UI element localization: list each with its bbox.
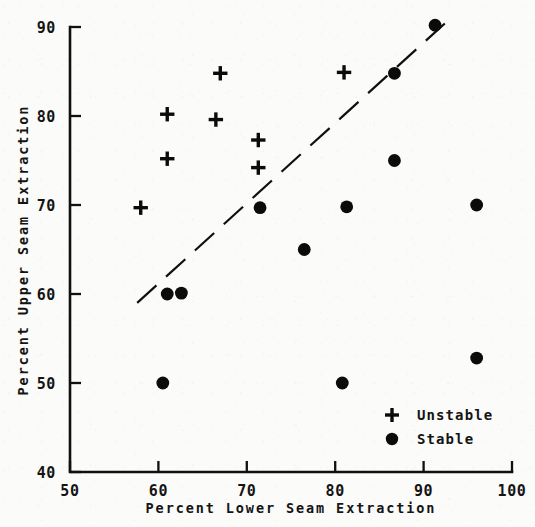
data-point-unstable bbox=[251, 160, 265, 174]
axis-lines bbox=[70, 27, 512, 472]
legend-label-unstable: Unstable bbox=[417, 407, 493, 423]
data-point-stable bbox=[470, 199, 483, 212]
data-point-unstable bbox=[337, 65, 351, 79]
data-point-unstable bbox=[213, 66, 227, 80]
data-point-stable bbox=[161, 288, 174, 301]
data-point-unstable bbox=[251, 133, 265, 147]
data-point-stable bbox=[388, 67, 401, 80]
data-point-stable bbox=[336, 377, 349, 390]
data-point-stable bbox=[298, 243, 311, 256]
x-tick-label-80: 80 bbox=[326, 482, 345, 500]
x-tick-label-50: 50 bbox=[60, 482, 79, 500]
data-point-unstable bbox=[209, 112, 223, 126]
filled-circle-icon bbox=[386, 433, 398, 445]
x-tick-label-100: 100 bbox=[498, 482, 527, 500]
legend-entry-stable: Stable bbox=[386, 431, 474, 447]
data-point-stable bbox=[470, 352, 483, 365]
legend: Unstable Stable bbox=[385, 407, 493, 447]
data-point-stable bbox=[340, 200, 353, 213]
x-axis-ticks bbox=[70, 461, 512, 472]
y-tick-label-60: 60 bbox=[37, 286, 56, 304]
data-point-stable bbox=[429, 19, 442, 32]
x-axis-title: Percent Lower Seam Extraction bbox=[146, 500, 437, 516]
axis-frame bbox=[70, 27, 512, 472]
y-tick-label-80: 80 bbox=[37, 108, 56, 126]
data-point-stable bbox=[156, 377, 169, 390]
legend-entry-unstable: Unstable bbox=[385, 407, 493, 423]
y-axis-ticks bbox=[70, 27, 81, 472]
data-point-stable bbox=[175, 287, 188, 300]
x-tick-label-90: 90 bbox=[414, 482, 433, 500]
scatter-plot-figure: 405060708090 5060708090100 Percent Lower… bbox=[0, 0, 535, 527]
legend-label-stable: Stable bbox=[417, 431, 474, 447]
data-point-unstable bbox=[160, 107, 174, 121]
series-stable-points bbox=[156, 19, 483, 390]
plot-canvas: 405060708090 5060708090100 Percent Lower… bbox=[0, 0, 535, 527]
y-tick-label-40: 40 bbox=[37, 464, 56, 482]
x-axis-tick-labels: 5060708090100 bbox=[60, 482, 526, 500]
y-tick-label-50: 50 bbox=[37, 375, 56, 393]
data-point-unstable bbox=[160, 152, 174, 166]
y-axis-tick-labels: 405060708090 bbox=[37, 19, 56, 482]
data-point-unstable bbox=[134, 200, 148, 214]
y-tick-label-70: 70 bbox=[37, 197, 56, 215]
y-axis-title: Percent Upper Seam Extraction bbox=[15, 105, 31, 396]
y-tick-label-90: 90 bbox=[37, 19, 56, 37]
data-point-stable bbox=[254, 201, 267, 214]
x-tick-label-70: 70 bbox=[237, 482, 256, 500]
x-tick-label-60: 60 bbox=[149, 482, 168, 500]
series-unstable-points bbox=[134, 65, 352, 215]
data-point-stable bbox=[388, 154, 401, 167]
plus-icon bbox=[385, 408, 399, 422]
